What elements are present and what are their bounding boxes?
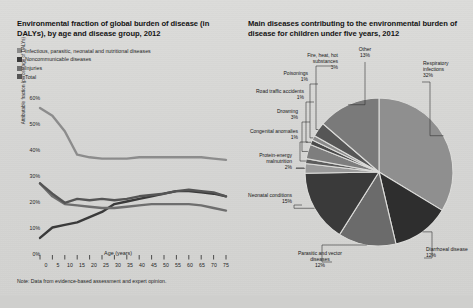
pie-label-congenital-anomalies-text: Congenital anomalies	[250, 128, 298, 134]
pie-chart-plot: Respiratory infections 32% Diarrhoeal di…	[236, 0, 473, 296]
x-tick-65: 65	[196, 262, 208, 268]
pie-chart-panel: Main diseases contributing to the enviro…	[236, 0, 473, 296]
pie-label-protein-energy-malnutrition-pct: 2%	[240, 164, 292, 170]
pie-label-neonatal-conditions-text: Neonatal conditions	[248, 192, 292, 198]
pie-label-parasitic-and-vector-diseases: Parasitic and vector diseases 12%	[294, 250, 346, 268]
pie-label-road-traffic-accidents-pct: 1%	[242, 94, 304, 100]
x-tick-0: 0	[40, 262, 52, 268]
pie-leader-line	[348, 62, 365, 105]
x-tick-10: 10	[64, 262, 76, 268]
x-tick-45: 45	[148, 262, 160, 268]
pie-label-fire-heat-hot-substances: Fire, heat, hot substances 3%	[290, 52, 338, 70]
pie-label-protein-energy-malnutrition-text: Protein-energy malnutrition	[259, 152, 292, 164]
x-tick-20: 20	[88, 262, 100, 268]
pie-label-poisonings-pct: 1%	[260, 76, 308, 82]
line-series-infectious-parasitic-neonatal-and-nutritional-diseases	[40, 108, 226, 160]
x-tick-60: 60	[184, 262, 196, 268]
pie-label-poisonings-text: Poisonings	[284, 70, 308, 76]
pie-label-drowning-text: Drowning	[277, 108, 298, 114]
pie-label-parasitic-and-vector-diseases-pct: 12%	[294, 262, 346, 268]
pie-label-diarrhoeal-disease-pct: 12%	[426, 252, 470, 258]
x-tick-30: 30	[112, 262, 124, 268]
pie-label-road-traffic-accidents-text: Road traffic accidents	[256, 88, 304, 94]
x-tick-40: 40	[136, 262, 148, 268]
pie-label-congenital-anomalies: Congenital anomalies 1%	[236, 128, 298, 140]
x-tick-25: 25	[100, 262, 112, 268]
x-tick-75: 75	[220, 262, 232, 268]
pie-leader-line	[294, 205, 315, 208]
x-tick-50: 50	[160, 262, 172, 268]
pie-label-protein-energy-malnutrition: Protein-energy malnutrition 2%	[240, 152, 292, 170]
x-tick-35: 35	[124, 262, 136, 268]
pie-label-congenital-anomalies-pct: 1%	[236, 134, 298, 140]
pie-label-other: Other 13%	[348, 46, 382, 58]
pie-label-neonatal-conditions-pct: 15%	[244, 198, 292, 204]
pie-label-respiratory-infections-pct: 32%	[423, 72, 469, 78]
pie-label-road-traffic-accidents: Road traffic accidents 1%	[242, 88, 304, 100]
pie-label-neonatal-conditions: Neonatal conditions 15%	[244, 192, 292, 204]
pie-label-parasitic-and-vector-diseases-text: Parasitic and vector diseases	[298, 250, 342, 262]
line-chart-panel: Environmental fraction of global burden …	[0, 0, 236, 296]
page-bottom-strip	[0, 296, 473, 308]
pie-label-poisonings: Poisonings 1%	[260, 70, 308, 82]
figure-panel: Environmental fraction of global burden …	[0, 0, 473, 296]
pie-label-diarrhoeal-disease-text: Diarrhoeal disease	[426, 246, 468, 252]
line-chart-x-axis-title: Age (years)	[58, 250, 178, 256]
pie-label-fire-heat-hot-substances-text: Fire, heat, hot substances	[307, 52, 338, 64]
pie-label-respiratory-infections: Respiratory infections 32%	[423, 60, 469, 78]
pie-label-respiratory-infections-text: Respiratory infections	[423, 60, 449, 72]
pie-label-other-pct: 13%	[348, 52, 382, 58]
x-tick-15: 15	[76, 262, 88, 268]
pie-label-drowning: Drowning 3%	[250, 108, 298, 120]
pie-label-other-text: Other	[359, 46, 372, 52]
x-tick-70: 70	[208, 262, 220, 268]
x-tick-55: 55	[172, 262, 184, 268]
figure-note: Note: Data from evidence-based assessmen…	[17, 278, 166, 284]
pie-label-fire-heat-hot-substances-pct: 3%	[290, 64, 338, 70]
pie-label-diarrhoeal-disease: Diarrhoeal disease 12%	[426, 246, 470, 258]
x-tick-5: 5	[52, 262, 64, 268]
pie-label-drowning-pct: 3%	[250, 114, 298, 120]
